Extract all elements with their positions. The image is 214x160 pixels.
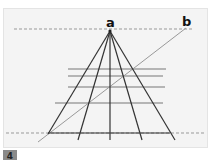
label-a: a — [106, 15, 115, 30]
label-b: b — [182, 14, 191, 29]
perspective-diagram: a b — [0, 0, 214, 160]
diagonal-line-b — [38, 28, 186, 142]
panel-number-badge: 4 — [3, 150, 17, 160]
